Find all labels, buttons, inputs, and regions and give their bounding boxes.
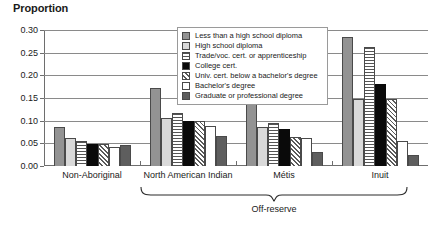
- legend-item[interactable]: Less than a high school diploma: [182, 31, 323, 41]
- bar[interactable]: [87, 144, 98, 166]
- legend: Less than a high school diplomaHigh scho…: [177, 27, 328, 105]
- bar[interactable]: [98, 144, 109, 166]
- bar[interactable]: [279, 129, 290, 166]
- legend-label: Trade/voc. cert. or apprenticeship: [195, 52, 306, 60]
- legend-item[interactable]: College cert.: [182, 61, 323, 71]
- legend-label: Less than a high school diploma: [195, 32, 302, 40]
- x-axis-labels: Non-AboriginalNorth American IndianMétis…: [44, 170, 428, 180]
- chart-title: Proportion: [13, 2, 68, 14]
- y-tick-label: 0.05: [20, 139, 38, 148]
- bar[interactable]: [386, 99, 397, 166]
- legend-item[interactable]: Bachelor's degree: [182, 81, 323, 91]
- bar[interactable]: [312, 152, 323, 167]
- legend-item[interactable]: Trade/voc. cert. or apprenticeship: [182, 51, 323, 61]
- bar[interactable]: [120, 145, 131, 166]
- legend-label: Bachelor's degree: [195, 82, 255, 90]
- bar[interactable]: [364, 47, 375, 166]
- bar[interactable]: [290, 137, 301, 166]
- legend-item[interactable]: Graduate or professional degree: [182, 91, 323, 101]
- bar[interactable]: [194, 121, 205, 166]
- y-tick-label: 0.30: [20, 26, 38, 35]
- bar[interactable]: [301, 138, 312, 166]
- bar[interactable]: [216, 136, 227, 166]
- bar[interactable]: [246, 99, 257, 166]
- legend-swatch-icon: [182, 42, 190, 50]
- bar[interactable]: [268, 123, 279, 166]
- legend-swatch-icon: [182, 92, 190, 100]
- x-axis-label: Métis: [236, 170, 332, 180]
- bar-group: [332, 30, 428, 166]
- bar[interactable]: [408, 155, 419, 166]
- brace-icon: [140, 186, 408, 202]
- x-axis-label: North American Indian: [140, 170, 236, 180]
- legend-swatch-icon: [182, 72, 190, 80]
- legend-swatch-icon: [182, 52, 190, 60]
- bar[interactable]: [54, 127, 65, 166]
- y-tick-mark: [40, 166, 44, 167]
- bar[interactable]: [172, 113, 183, 166]
- legend-label: Univ. cert. below a bachelor's degree: [195, 72, 318, 80]
- bar[interactable]: [205, 126, 216, 166]
- y-tick-label: 0.20: [20, 71, 38, 80]
- bar[interactable]: [397, 141, 408, 166]
- bar-group: [44, 30, 140, 166]
- bar[interactable]: [109, 147, 120, 166]
- bar[interactable]: [76, 141, 87, 166]
- bar[interactable]: [353, 99, 364, 166]
- legend-item[interactable]: Univ. cert. below a bachelor's degree: [182, 71, 323, 81]
- x-axis-label: Inuit: [332, 170, 428, 180]
- bar[interactable]: [150, 88, 161, 166]
- legend-swatch-icon: [182, 82, 190, 90]
- bar[interactable]: [342, 37, 353, 166]
- y-tick-label: 0.15: [20, 94, 38, 103]
- bar[interactable]: [65, 138, 76, 166]
- y-tick-label: 0.00: [20, 162, 38, 171]
- bar[interactable]: [183, 121, 194, 166]
- bar[interactable]: [161, 118, 172, 166]
- legend-label: High school diploma: [195, 42, 263, 50]
- legend-label: Graduate or professional degree: [195, 92, 303, 100]
- off-reserve-label: Off-reserve: [140, 204, 408, 214]
- off-reserve-brace: [140, 186, 408, 202]
- y-tick-label: 0.10: [20, 116, 38, 125]
- x-axis-label: Non-Aboriginal: [44, 170, 140, 180]
- legend-swatch-icon: [182, 32, 190, 40]
- y-tick-label: 0.25: [20, 48, 38, 57]
- legend-swatch-icon: [182, 62, 190, 70]
- legend-item[interactable]: High school diploma: [182, 41, 323, 51]
- bar[interactable]: [375, 84, 386, 167]
- chart-root: Proportion 0.000.050.100.150.200.250.30 …: [0, 0, 441, 232]
- bar[interactable]: [257, 127, 268, 166]
- legend-label: College cert.: [195, 62, 237, 70]
